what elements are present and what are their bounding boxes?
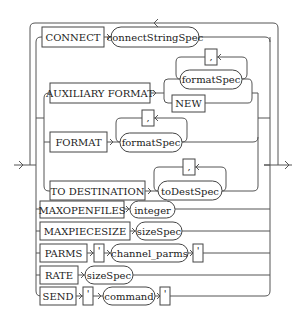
branch-send: SEND ' command ' (40, 287, 265, 305)
keyword-to-destination-label: TO DESTINATION (51, 186, 145, 197)
literal-quote-parms-open-label: ' (98, 245, 101, 256)
variable-command-label: command (104, 291, 154, 302)
railroad-diagram: CONNECT connectStringSpec AUXILIARY FORM… (0, 0, 300, 319)
literal-quote-parms-close-label: ' (197, 245, 200, 256)
keyword-format-label: FORMAT (55, 137, 102, 148)
variable-formatSpec-label: formatSpec (122, 137, 181, 148)
branch-maxopenfiles: MAXOPENFILES integer (36, 201, 270, 218)
keyword-auxiliary-format-label: AUXILIARY FORMAT (45, 88, 154, 99)
literal-comma-aux-label: , (209, 51, 212, 62)
variable-integer-label: integer (134, 205, 171, 216)
literal-quote-send-close-label: ' (164, 288, 167, 299)
variable-sizeSpec-maxpiece-label: sizeSpec (137, 226, 182, 237)
variable-toDestSpec-label: toDestSpec (161, 186, 219, 197)
variable-channel-parms-label: channel_parms (111, 248, 188, 260)
keyword-new-label: NEW (175, 98, 202, 109)
literal-quote-send-open-label: ' (87, 288, 90, 299)
entry-arrow (14, 161, 30, 169)
branch-rate: RATE sizeSpec (36, 266, 270, 284)
keyword-connect-label: CONNECT (46, 32, 101, 43)
branch-maxpiecesize: MAXPIECESIZE sizeSpec (36, 222, 270, 240)
variable-connectStringSpec-label: connectStringSpec (107, 32, 204, 43)
keyword-rate-label: RATE (45, 270, 73, 281)
branch-connect: CONNECT connectStringSpec (42, 27, 270, 47)
branch-auxiliary-format: AUXILIARY FORMAT formatSpec , NEW (45, 49, 258, 112)
branch-to-destination: TO DESTINATION toDestSpec , (50, 159, 253, 200)
keyword-maxpiecesize-label: MAXPIECESIZE (44, 226, 127, 237)
literal-comma-todest-label: , (187, 161, 190, 172)
keyword-send-label: SEND (43, 291, 74, 302)
keyword-maxopenfiles-label: MAXOPENFILES (38, 205, 125, 216)
variable-formatSpec-aux-label: formatSpec (182, 74, 241, 85)
branch-parms: PARMS ' channel_parms ' (36, 244, 270, 262)
branch-format: FORMAT formatSpec , (50, 110, 258, 152)
keyword-parms-label: PARMS (45, 248, 83, 259)
literal-comma-format-label: , (146, 112, 149, 123)
variable-sizeSpec-rate-label: sizeSpec (87, 270, 132, 281)
